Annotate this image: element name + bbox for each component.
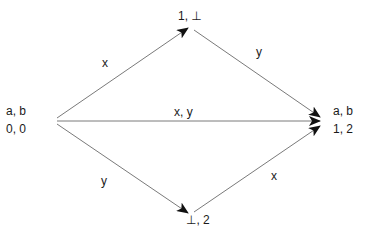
edge-start-to-top bbox=[57, 28, 188, 118]
node-start-line2: 0, 0 bbox=[6, 121, 26, 138]
node-bottom: ⊥, 2 bbox=[186, 212, 210, 229]
edge-start-to-bottom bbox=[57, 124, 188, 213]
edge-label-start-to-bottom: y bbox=[101, 174, 107, 188]
edge-label-start-to-top: x bbox=[102, 56, 108, 70]
diagram-edges bbox=[0, 0, 372, 240]
edge-bottom-to-end bbox=[194, 126, 320, 212]
edge-label-bottom-to-end: x bbox=[271, 169, 277, 183]
state-diagram: a, b 0, 0 1, ⊥ ⊥, 2 a, b 1, 2 x y x, y y… bbox=[0, 0, 372, 240]
node-top: 1, ⊥ bbox=[178, 8, 202, 25]
edge-top-to-end bbox=[194, 30, 320, 117]
edge-label-start-to-end: x, y bbox=[174, 105, 193, 119]
node-end-line1: a, b bbox=[333, 103, 353, 120]
node-start-line1: a, b bbox=[6, 103, 26, 120]
node-end-line2: 1, 2 bbox=[333, 121, 353, 138]
edge-label-top-to-end: y bbox=[256, 45, 262, 59]
